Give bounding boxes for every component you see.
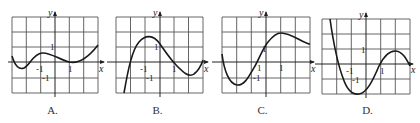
tick-y-pos: 1: [154, 42, 159, 52]
caption-d: D.: [315, 104, 420, 116]
x-axis-label: x: [203, 63, 209, 74]
y-axis-label: y: [358, 9, 364, 20]
y-axis-arrow-icon: [264, 11, 268, 16]
tick-y-pos: 1: [50, 42, 55, 52]
caption-a: A.: [0, 104, 105, 116]
graph-d: y x -1 1 1 -1 D.: [315, 0, 420, 123]
graph-a: y x -1 1 1 -1 A.: [0, 0, 105, 123]
tick-y-neg: -1: [352, 75, 360, 85]
tick-y-neg: -1: [253, 73, 261, 83]
function-curve: [124, 37, 203, 93]
x-axis-label: x: [410, 64, 416, 75]
tick-y-pos: 1: [361, 45, 366, 55]
tick-y-neg: -1: [42, 73, 50, 83]
y-axis-arrow-icon: [364, 12, 368, 17]
y-axis-label: y: [47, 7, 53, 18]
x-axis-label: x: [98, 63, 104, 74]
tick-y-neg: -1: [146, 73, 154, 83]
graph-b: y x -1 1 1 -1 B.: [105, 0, 210, 123]
tick-x-neg: 1: [257, 63, 262, 73]
graph-c: y x 1 1 1 -1 C.: [210, 0, 315, 123]
tick-x-pos: 1: [68, 64, 73, 74]
caption-c: C.: [210, 104, 315, 116]
tick-x-pos: 1: [380, 66, 385, 76]
y-axis-label: y: [258, 7, 264, 18]
tick-x-pos: 1: [279, 63, 284, 73]
y-axis-arrow-icon: [158, 11, 162, 16]
function-curve: [330, 19, 410, 94]
y-axis-arrow-icon: [53, 11, 57, 16]
caption-b: B.: [105, 104, 210, 116]
y-axis-label: y: [152, 7, 158, 18]
